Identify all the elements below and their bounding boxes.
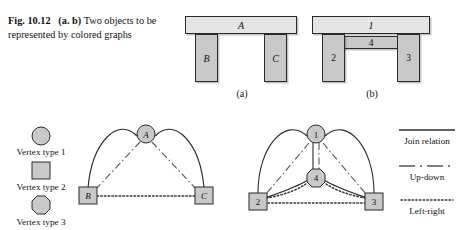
graph-b-node-2-label: 2 bbox=[256, 197, 261, 207]
object-a-part-left-leg-label: B bbox=[203, 53, 209, 64]
object-a-part-left-leg: B bbox=[195, 34, 218, 82]
object-b-sublabel: (b) bbox=[352, 88, 392, 99]
object-b-part-left-leg-label: 2 bbox=[331, 53, 336, 63]
object-a-part-right-leg-label: C bbox=[272, 53, 279, 64]
figure-panel-tag: (a. b) bbox=[58, 15, 81, 26]
graph-a-node-B-label: B bbox=[85, 191, 91, 201]
vertex-legend-label-1: Vertex type 1 bbox=[17, 147, 66, 157]
object-b-part-top-bar-label: 1 bbox=[369, 20, 374, 31]
graph-b-edge-join-4-2 bbox=[265, 180, 308, 198]
graph-a-edge-join-A-C bbox=[155, 129, 204, 188]
graph-b: 1 4 2 3 bbox=[249, 125, 383, 210]
vertex-legend: Vertex type 1 Vertex type 2 Vertex type … bbox=[17, 127, 66, 227]
colored-graphs-panel: .e-solid { fill:none; stroke:#2a2a2a; st… bbox=[0, 118, 463, 230]
object-b-part-top-bar: 1 bbox=[312, 16, 430, 34]
vertex-legend-label-3: Vertex type 3 bbox=[17, 217, 66, 227]
object-b-part-middle-bar-label: 4 bbox=[369, 38, 374, 48]
graph-b-edge-join-4-3 bbox=[324, 180, 367, 198]
vertex-legend-circle-icon bbox=[32, 127, 50, 145]
edge-legend-label-1: Join relation bbox=[404, 136, 450, 146]
graph-a-edge-updown-A-C bbox=[152, 142, 197, 190]
object-b-part-left-leg: 2 bbox=[322, 34, 345, 82]
graph-b-node-3-label: 3 bbox=[372, 197, 377, 207]
graph-b-edge-leftright-4-2 bbox=[267, 184, 306, 198]
edge-legend-label-3: Left-right bbox=[409, 206, 445, 216]
graph-b-node-4-label: 4 bbox=[314, 173, 319, 183]
figure-number: Fig. 10.12 bbox=[8, 15, 51, 26]
vertex-legend-label-2: Vertex type 2 bbox=[17, 182, 66, 192]
object-diagram-a: A B C (a) bbox=[185, 8, 300, 103]
object-b-part-right-leg: 3 bbox=[397, 34, 420, 82]
figure-caption: Fig. 10.12 (a. b) Two objects to be repr… bbox=[8, 14, 158, 41]
graph-a-node-A-label: A bbox=[142, 130, 149, 140]
object-a-sublabel: (a) bbox=[222, 88, 262, 99]
graph-a-edge-updown-A-B bbox=[95, 142, 140, 190]
graph-a: A B C bbox=[79, 125, 213, 204]
graph-a-node-C-label: C bbox=[201, 191, 208, 201]
object-b-part-middle-bar: 4 bbox=[340, 36, 402, 49]
object-a-part-top-bar-label: A bbox=[238, 20, 244, 31]
graph-b-edge-join-1-3 bbox=[325, 130, 374, 193]
edge-legend: Join relation Up-down Left-right bbox=[399, 130, 455, 216]
object-b-part-right-leg-label: 3 bbox=[406, 53, 411, 63]
vertex-legend-square-icon bbox=[32, 162, 50, 179]
object-a-part-top-bar: A bbox=[185, 16, 297, 34]
edge-legend-label-2: Up-down bbox=[410, 172, 445, 182]
vertex-legend-octagon-icon bbox=[32, 196, 50, 214]
object-diagram-b: 1 4 2 3 (b) bbox=[312, 8, 432, 103]
graph-b-node-1-label: 1 bbox=[314, 130, 319, 140]
graph-b-edge-leftright-4-3 bbox=[326, 184, 365, 198]
graph-a-edge-join-A-B bbox=[88, 129, 137, 188]
object-a-part-right-leg: C bbox=[264, 34, 287, 82]
graph-b-edge-join-1-2 bbox=[258, 130, 307, 193]
